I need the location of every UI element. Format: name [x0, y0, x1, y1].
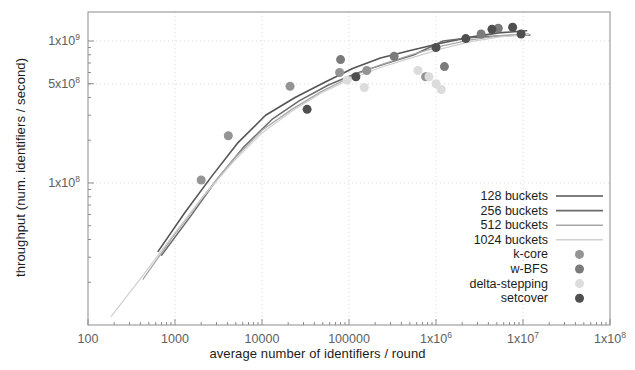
chart-plot-area	[0, 0, 635, 370]
data-point-k-core	[286, 82, 295, 91]
data-point-w-bfs	[477, 30, 486, 39]
legend-label-setcover: setcover	[380, 291, 548, 305]
y-axis-title: throughput (num. identifiers / second)	[13, 0, 28, 338]
y-tick-label: 5x108	[26, 77, 80, 91]
legend-label-256-buckets: 256 buckets	[380, 204, 548, 218]
data-point-k-core	[362, 66, 371, 75]
x-tick-label: 1000	[161, 332, 189, 346]
data-point-w-bfs	[440, 62, 449, 71]
x-tick-label: 1x108	[594, 332, 626, 346]
legend-label-w-bfs: w-BFS	[380, 262, 548, 276]
data-point-w-bfs	[336, 55, 345, 64]
x-axis-title: average number of identifiers / round	[0, 346, 635, 361]
data-point-delta-stepping	[437, 85, 446, 94]
legend-swatch-k-core	[575, 250, 584, 259]
legend-label-k-core: k-core	[380, 247, 548, 261]
data-point-k-core	[224, 131, 233, 140]
data-point-setcover	[432, 43, 441, 52]
data-point-w-bfs	[390, 52, 399, 61]
legend-label-1024-buckets: 1024 buckets	[380, 233, 548, 247]
data-point-delta-stepping	[413, 66, 422, 75]
x-tick-label: 100000	[328, 332, 370, 346]
y-axis-title-wrapper: throughput (num. identifiers / second)	[0, 0, 28, 340]
legend-label-512-buckets: 512 buckets	[380, 218, 548, 232]
data-point-setcover	[351, 72, 360, 81]
x-tick-label: 1x107	[507, 332, 539, 346]
data-point-k-core	[335, 68, 344, 77]
data-point-setcover	[508, 23, 517, 32]
chart-figure: throughput (num. identifiers / second) a…	[0, 0, 635, 370]
legend-label-delta-stepping: delta-stepping	[380, 277, 548, 291]
legend-swatch-w-bfs	[575, 265, 584, 274]
data-point-delta-stepping	[343, 76, 352, 85]
x-tick-label: 100	[78, 332, 99, 346]
y-tick-label: 1x108	[26, 176, 80, 190]
data-point-delta-stepping	[360, 83, 369, 92]
x-tick-label: 1x106	[420, 332, 452, 346]
data-point-setcover	[461, 34, 470, 43]
y-tick-label: 1x109	[26, 34, 80, 48]
legend-label-128-buckets: 128 buckets	[380, 189, 548, 203]
data-point-setcover	[303, 105, 312, 114]
x-tick-label: 10000	[245, 332, 280, 346]
data-point-setcover	[517, 30, 526, 39]
data-point-setcover	[487, 25, 496, 34]
data-point-k-core	[197, 175, 206, 184]
data-point-delta-stepping	[424, 72, 433, 81]
legend-swatch-setcover	[575, 294, 584, 303]
legend-swatch-delta-stepping	[575, 279, 584, 288]
